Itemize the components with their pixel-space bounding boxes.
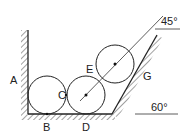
angle-45: 45° [161, 15, 178, 27]
contact-b [46, 113, 48, 115]
center-dot-2 [85, 94, 88, 97]
center-dot-3 [114, 63, 117, 66]
label-e: E [86, 63, 93, 75]
label-c: C [58, 89, 66, 101]
label-g: G [143, 70, 152, 82]
wall-hatch [21, 30, 28, 114]
floor-hatch [21, 114, 115, 120]
cylinder-diagram: A B C D E G 45° 60° [0, 0, 186, 139]
angle-60: 60° [151, 101, 168, 113]
label-a: A [10, 74, 18, 86]
label-d: D [82, 121, 90, 133]
label-b: B [43, 121, 50, 133]
